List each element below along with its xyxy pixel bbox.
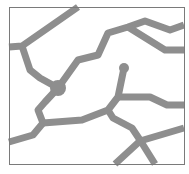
road-b bbox=[22, 46, 58, 88]
road-end-node bbox=[119, 63, 129, 73]
road-g bbox=[118, 97, 184, 105]
road-a bbox=[9, 7, 78, 47]
map-canvas[interactable] bbox=[0, 0, 189, 174]
road-e bbox=[9, 88, 58, 142]
map-frame bbox=[10, 8, 185, 165]
map-view[interactable] bbox=[0, 0, 189, 174]
junction-node bbox=[50, 80, 66, 96]
roads-layer bbox=[9, 7, 184, 164]
